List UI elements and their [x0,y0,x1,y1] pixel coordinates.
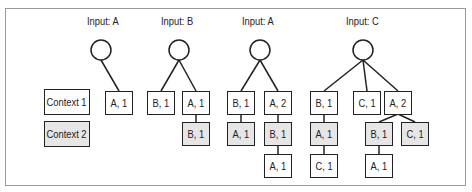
root-node [250,40,270,60]
node-label: B, 1 [233,97,250,109]
legend-label: Context 1 [47,96,87,108]
tree-node: A, 1 [365,154,393,178]
tree-node: C, 1 [401,122,429,146]
node-label: B, 1 [316,97,333,109]
legend-label: Context 2 [47,128,87,140]
node-label: A, 1 [111,97,128,109]
node-label: A, 1 [188,97,205,109]
tree-node: A, 1 [310,122,338,146]
tree-title: Input: C [346,15,379,27]
tree-node: A, 1 [182,91,210,115]
root-node [353,40,373,60]
tree-node: C, 1 [353,91,381,115]
tree-node: A, 1 [227,122,255,146]
tree-node: A, 1 [264,154,292,178]
tree-node: B, 1 [365,122,393,146]
node-label: B, 1 [153,97,170,109]
node-label: A, 1 [233,128,250,140]
node-label: B, 1 [371,128,388,140]
node-label: A, 1 [371,160,388,172]
tree-node: B, 1 [310,91,338,115]
node-label: C, 1 [358,97,375,109]
node-label: C, 1 [406,128,423,140]
tree-node: A, 2 [264,91,292,115]
tree-node: B, 1 [182,122,210,146]
root-node [91,40,111,60]
node-label: A, 1 [316,128,333,140]
tree-node: A, 2 [384,91,412,115]
tree-title: Input: B [161,15,193,27]
tree-node: B, 1 [147,91,175,115]
root-node [169,40,189,60]
node-label: A, 2 [270,97,287,109]
node-label: B, 1 [188,128,205,140]
tree-node: A, 1 [105,91,133,115]
tree-node: B, 1 [227,91,255,115]
node-label: A, 1 [270,160,287,172]
tree-title: Input: A [87,15,119,27]
node-label: C, 1 [315,160,332,172]
node-label: A, 2 [390,97,407,109]
node-label: B, 1 [270,128,287,140]
tree-node: B, 1 [264,122,292,146]
tree-node: C, 1 [310,154,338,178]
tree-title: Input: A [242,15,274,27]
legend-context-1: Context 1 [44,89,90,115]
legend-context-2: Context 2 [44,121,90,147]
